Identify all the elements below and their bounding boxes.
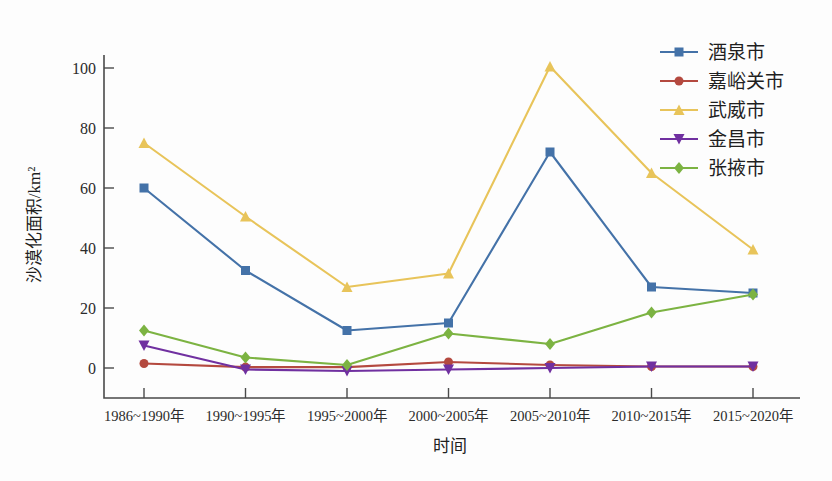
line-chart: 020406080100沙漠化面积/km²1986~1990年1990~1995… xyxy=(0,0,832,481)
data-point xyxy=(675,48,684,57)
y-axis-ticks: 020406080100 xyxy=(72,60,114,377)
legend-item-金昌市[interactable]: 金昌市 xyxy=(660,129,765,150)
x-tick-label: 2005~2010年 xyxy=(510,408,590,424)
data-point xyxy=(241,352,251,364)
y-tick-label: 100 xyxy=(72,60,96,77)
data-point xyxy=(647,307,657,319)
legend-item-酒泉市[interactable]: 酒泉市 xyxy=(660,42,765,63)
data-point xyxy=(444,319,453,328)
series-line xyxy=(144,67,753,288)
data-point xyxy=(546,148,555,157)
y-tick-label: 0 xyxy=(88,360,96,377)
data-point xyxy=(139,138,150,149)
y-tick-label: 40 xyxy=(80,240,96,257)
y-tick-label: 80 xyxy=(80,120,96,137)
series-line xyxy=(144,152,753,331)
legend-label: 张掖市 xyxy=(708,158,765,179)
x-tick-label: 1990~1995年 xyxy=(206,408,286,424)
x-axis-ticks: 1986~1990年1990~1995年1995~2000年2000~2005年… xyxy=(104,388,793,424)
series-武威市 xyxy=(139,61,759,292)
legend-label: 武威市 xyxy=(708,100,765,121)
y-axis-title: 沙漠化面积/km² xyxy=(25,167,44,284)
data-point xyxy=(675,77,684,86)
data-point xyxy=(343,326,352,335)
legend-item-张掖市[interactable]: 张掖市 xyxy=(660,158,765,179)
data-point xyxy=(444,328,454,340)
legend-label: 金昌市 xyxy=(708,129,765,150)
x-tick-label: 1986~1990年 xyxy=(104,408,184,424)
legend-item-嘉峪关市[interactable]: 嘉峪关市 xyxy=(660,71,784,92)
data-point xyxy=(241,266,250,275)
series-酒泉市 xyxy=(140,148,758,336)
x-tick-label: 2015~2020年 xyxy=(713,408,793,424)
y-tick-label: 20 xyxy=(80,300,96,317)
x-tick-label: 2010~2015年 xyxy=(612,408,692,424)
data-point xyxy=(545,338,555,350)
legend-label: 酒泉市 xyxy=(708,42,765,63)
data-point xyxy=(674,162,684,174)
y-tick-label: 60 xyxy=(80,180,96,197)
x-tick-label: 2000~2005年 xyxy=(409,408,489,424)
legend-item-武威市[interactable]: 武威市 xyxy=(660,100,765,121)
data-point xyxy=(140,184,149,193)
x-tick-label: 1995~2000年 xyxy=(307,408,387,424)
data-point xyxy=(140,359,149,368)
legend-label: 嘉峪关市 xyxy=(708,71,784,92)
x-axis-title: 时间 xyxy=(433,437,467,456)
chart-legend: 酒泉市嘉峪关市武威市金昌市张掖市 xyxy=(660,42,784,179)
data-point xyxy=(545,61,556,72)
chart-page: 020406080100沙漠化面积/km²1986~1990年1990~1995… xyxy=(0,0,832,481)
data-point xyxy=(139,325,149,337)
data-point xyxy=(647,283,656,292)
